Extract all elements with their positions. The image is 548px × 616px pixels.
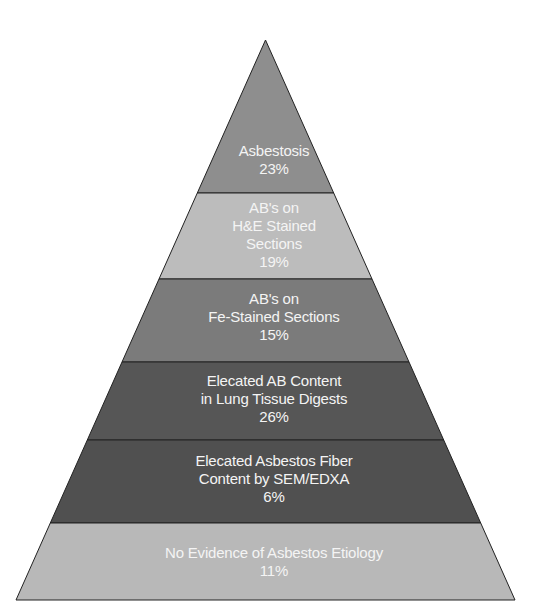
level-4-line-1: Elecated AB Content: [0, 372, 548, 390]
level-6-label: No Evidence of Asbestos Etiology 11%: [0, 544, 548, 580]
level-2-percent: 19%: [0, 253, 548, 271]
level-5-line-2: Content by SEM/EDXA: [0, 470, 548, 488]
level-4-line-2: in Lung Tissue Digests: [0, 390, 548, 408]
level-2-line-3: Sections: [0, 235, 548, 253]
level-5-line-1: Elecated Asbestos Fiber: [0, 452, 548, 470]
level-1-line-1: Asbestosis: [0, 142, 548, 160]
level-2-label: AB's on H&E Stained Sections 19%: [0, 199, 548, 271]
level-5-label: Elecated Asbestos Fiber Content by SEM/E…: [0, 452, 548, 506]
level-3-percent: 15%: [0, 326, 548, 344]
level-3-label: AB's on Fe-Stained Sections 15%: [0, 290, 548, 344]
level-3-line-1: AB's on: [0, 290, 548, 308]
level-6-line-1: No Evidence of Asbestos Etiology: [0, 544, 548, 562]
level-4-percent: 26%: [0, 408, 548, 426]
level-3-line-2: Fe-Stained Sections: [0, 308, 548, 326]
level-1-label: Asbestosis 23%: [0, 142, 548, 178]
level-1-percent: 23%: [0, 160, 548, 178]
level-6-percent: 11%: [0, 562, 548, 580]
level-5-percent: 6%: [0, 488, 548, 506]
level-4-label: Elecated AB Content in Lung Tissue Diges…: [0, 372, 548, 426]
level-2-line-2: H&E Stained: [0, 217, 548, 235]
level-2-line-1: AB's on: [0, 199, 548, 217]
